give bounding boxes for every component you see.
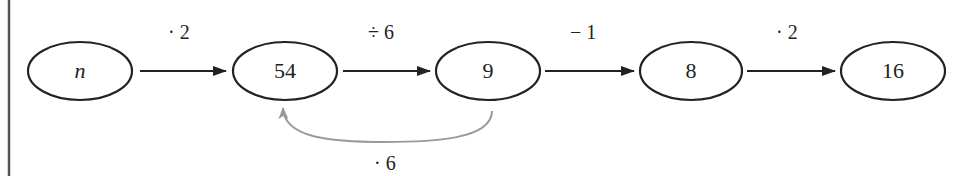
back-arrow-9-to-54 [283,108,492,142]
edge-label-times-2b: · 2 [776,20,798,44]
edge-label-minus-1: − 1 [570,20,596,44]
node-9-label: 9 [435,58,541,84]
edge-label-divide-6: ÷ 6 [368,20,394,44]
node-8-label: 8 [638,58,744,84]
edge-label-times-2: · 2 [168,20,190,44]
diagram-canvas [0,0,967,176]
flow-diagram: n 54 9 8 16 · 2 ÷ 6 − 1 · 2 · 6 [0,0,967,176]
node-54-label: 54 [232,58,338,84]
node-16-label: 16 [840,58,946,84]
back-edge-label-times-6: · 6 [374,151,396,175]
node-n-label: n [27,58,133,84]
